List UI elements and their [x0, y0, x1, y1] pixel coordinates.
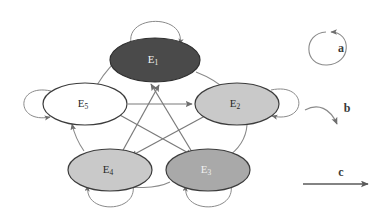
- legend-item-a: a: [309, 32, 346, 65]
- node-subscript-E2: 2: [236, 102, 240, 111]
- edge-E4-E1: [122, 85, 159, 152]
- node-subscript-E3: 3: [207, 168, 211, 177]
- legend-item-b: b: [305, 101, 351, 124]
- legend-label-c: c: [338, 165, 344, 179]
- node-E2[interactable]: E2: [195, 83, 279, 125]
- legend-item-c: c: [303, 165, 368, 184]
- legend-label-a: a: [338, 41, 344, 55]
- chord-edge-group: [118, 84, 205, 156]
- curved-arrow-icon: [305, 107, 337, 124]
- node-subscript-E4: 4: [109, 168, 113, 177]
- node-subscript-E1: 1: [154, 58, 158, 67]
- node-E4[interactable]: E4: [68, 149, 152, 191]
- edge-E4-E5: [72, 124, 84, 151]
- legend-label-b: b: [344, 101, 351, 115]
- node-subscript-E5: 5: [84, 102, 88, 111]
- node-E5[interactable]: E5: [43, 83, 127, 125]
- diagram-canvas: E1 E2 E3 E4 E5: [0, 0, 389, 217]
- legend: a b c: [303, 32, 368, 184]
- state-transition-diagram: E1 E2 E3 E4 E5: [0, 0, 389, 217]
- node-E3[interactable]: E3: [166, 149, 250, 191]
- node-E1[interactable]: E1: [110, 38, 200, 82]
